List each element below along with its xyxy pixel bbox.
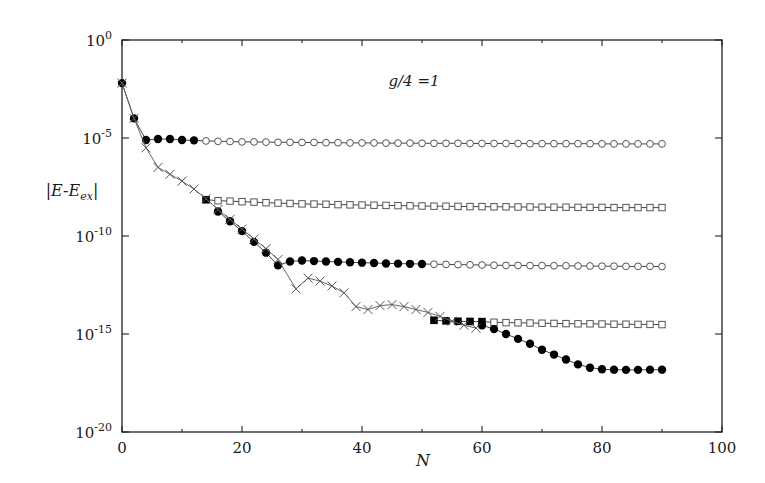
x-axis-label: N [415,451,431,470]
open-circle-marker [299,139,306,146]
open-square-marker [659,321,665,327]
open-square-marker [575,321,581,327]
open-circle-marker [647,140,654,147]
open-circle-marker [395,140,402,147]
filled-circle-marker [406,260,414,268]
open-circle-marker [227,138,234,145]
open-circle-marker [527,262,534,269]
y-tick-label: 10-10 [75,225,112,246]
open-square-marker [635,204,641,210]
filled-circle-marker [538,345,546,353]
open-circle-marker [635,140,642,147]
filled-circle-marker [586,364,594,372]
open-circle-marker [575,140,582,147]
open-circle-marker [515,140,522,147]
open-circle-marker [479,140,486,147]
filled-circle-marker [550,350,558,358]
cross-marker [304,274,313,283]
open-square-marker [599,204,605,210]
cross-marker [142,143,151,152]
filled-circle-marker [334,258,342,266]
open-circle-marker [623,263,630,270]
filled-circle-marker [322,257,330,265]
open-circle-marker [215,138,222,145]
y-axis-label: |E-Eex| [46,181,99,203]
open-square-marker [611,204,617,210]
open-circle-marker [479,262,486,269]
filled-circle-marker [166,135,174,143]
open-square-marker [659,204,665,210]
open-square-marker [359,202,365,208]
open-circle-marker [587,140,594,147]
open-circle-marker [287,139,294,146]
open-square-marker [275,200,281,206]
open-circle-marker [551,140,558,147]
data-series-layer [118,79,667,374]
open-square-marker [263,199,269,205]
filled-circle-marker [658,365,666,373]
open-circle-marker [491,140,498,147]
open-circle-marker [587,263,594,270]
open-square-marker [311,201,317,207]
cross-marker [190,184,199,193]
open-square-marker [407,203,413,209]
open-circle-marker [503,140,510,147]
series-circle [478,321,666,374]
open-square-marker [467,203,473,209]
open-circle-marker [431,261,438,268]
filled-circle-marker [610,365,618,373]
open-circle-marker [455,261,462,268]
open-square-marker [491,319,497,325]
open-circle-marker [203,138,210,145]
filled-circle-marker [562,355,570,363]
cross-marker [424,308,433,317]
open-square-marker [539,320,545,326]
filled-circle-marker [190,136,198,144]
filled-circle-marker [646,365,654,373]
filled-circle-marker [298,256,306,264]
open-square-marker [323,201,329,207]
open-circle-marker [239,139,246,146]
chart-canvas: 020406080100 10010-510-1010-1510-20 N |E… [0,0,765,483]
open-circle-marker [251,139,258,146]
open-square-marker [287,200,293,206]
plot-frame [122,40,722,432]
open-square-marker [239,199,245,205]
open-square-marker [539,204,545,210]
open-circle-marker [347,140,354,147]
open-circle-marker [335,139,342,146]
open-circle-marker [311,139,318,146]
parameter-annotation: g/4 =1 [388,72,439,90]
filled-circle-marker [502,330,510,338]
open-square-marker [527,320,533,326]
open-square-marker [515,204,521,210]
open-square-marker [503,319,509,325]
open-square-marker [419,203,425,209]
open-circle-marker [599,263,606,270]
x-tick-label: 60 [472,439,491,457]
open-circle-marker [359,140,366,147]
open-circle-marker [659,263,666,270]
open-circle-marker [647,263,654,270]
open-square-marker [443,203,449,209]
filled-circle-marker [526,340,534,348]
filled-circle-marker [310,257,318,265]
x-axis-ticks: 020406080100 [117,40,736,457]
open-square-marker [611,321,617,327]
cross-marker [436,312,445,321]
open-square-marker [575,204,581,210]
filled-circle-marker [262,248,270,256]
filled-circle-marker [634,366,642,374]
filled-circle-marker [370,259,378,267]
open-circle-marker [419,140,426,147]
open-square-marker [395,202,401,208]
filled-circle-marker [598,365,606,373]
open-square-marker [515,320,521,326]
open-circle-marker [623,140,630,147]
open-circle-marker [407,140,414,147]
filled-circle-marker [574,360,582,368]
open-square-marker [227,198,233,204]
y-axis-label-end: | [93,181,98,200]
filled-circle-marker [490,325,498,333]
cross-marker [166,170,175,179]
